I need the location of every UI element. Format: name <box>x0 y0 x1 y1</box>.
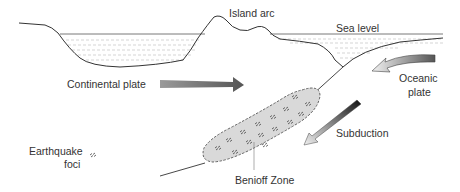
back-arc-basin <box>60 34 205 67</box>
label-benioff-zone: Benioff Zone <box>235 174 295 186</box>
ocean-water <box>270 34 443 58</box>
label-oceanic-line2: plate <box>408 86 431 98</box>
label-subduction: Subduction <box>336 127 389 139</box>
earthquake-foci-legend-icon <box>90 153 96 157</box>
slab-bottom-line <box>160 163 205 176</box>
label-sea-level: Sea level <box>336 22 379 34</box>
continental-plate-arrow <box>160 77 244 92</box>
subduction-diagram: Island arc Sea level Continental plate O… <box>0 0 460 192</box>
label-earthquake-line2: foci <box>64 158 80 170</box>
label-oceanic-line1: Oceanic <box>399 72 438 84</box>
label-continental-plate: Continental plate <box>67 78 146 90</box>
label-earthquake-line1: Earthquake <box>29 145 83 157</box>
oceanic-plate-arrow <box>372 55 435 72</box>
label-island-arc: Island arc <box>229 7 275 19</box>
benioff-zone <box>203 88 320 162</box>
